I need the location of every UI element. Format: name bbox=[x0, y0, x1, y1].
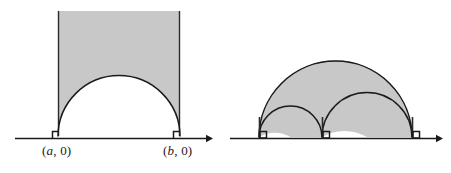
point-label-a: (a, 0) bbox=[42, 143, 71, 159]
num-zero-b: 0 bbox=[181, 143, 188, 158]
axis-arrowhead-right bbox=[436, 135, 443, 142]
axis-arrowhead-left bbox=[206, 135, 213, 142]
right-angle-mark-right bbox=[413, 132, 420, 139]
num-zero-a: 0 bbox=[60, 143, 67, 158]
left-panel-group bbox=[15, 11, 213, 142]
right-panel-group bbox=[230, 61, 443, 143]
point-label-b: (b, 0) bbox=[163, 143, 192, 159]
paren-close-a: ) bbox=[67, 143, 72, 158]
paren-close-b: ) bbox=[188, 143, 193, 158]
shaded-region-left bbox=[58, 11, 180, 136]
figure-root: (a, 0) (b, 0) bbox=[0, 0, 451, 173]
